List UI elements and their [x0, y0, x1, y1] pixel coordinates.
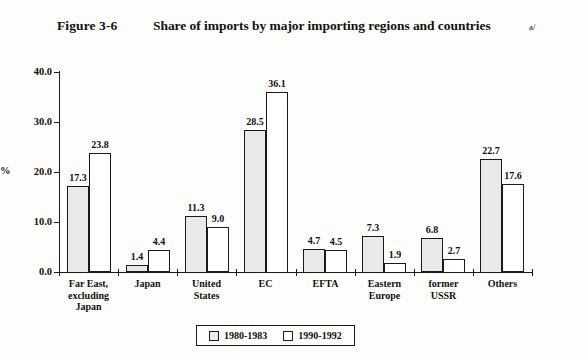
y-axis-tick-label: 40.0	[10, 67, 52, 78]
x-axis-tick	[118, 269, 119, 276]
bar	[325, 250, 347, 273]
bar	[207, 227, 229, 272]
figure-container: Figure 3-6 Share of imports by major imp…	[0, 0, 588, 360]
y-axis-unit-label: %	[0, 166, 11, 177]
bar-value-label: 2.7	[437, 246, 471, 256]
y-axis-tick-label: 30.0	[10, 117, 52, 128]
bar-value-label: 4.4	[142, 237, 176, 247]
y-axis-tick-label: 10.0	[10, 217, 52, 228]
bar	[502, 184, 524, 272]
x-axis-tick	[355, 269, 356, 276]
bar	[148, 250, 170, 272]
bar	[185, 216, 207, 273]
x-axis-tick	[236, 269, 237, 276]
bar	[89, 153, 111, 272]
bar-value-label: 17.6	[496, 171, 530, 181]
bar-value-label: 11.3	[179, 203, 213, 213]
bar	[244, 130, 266, 273]
bar-value-label: 1.9	[378, 250, 412, 260]
bar-value-label: 4.5	[319, 237, 353, 247]
x-axis-tick	[296, 269, 297, 276]
y-axis-tick	[54, 222, 60, 223]
legend-label: 1980-1983	[224, 331, 267, 341]
y-axis-tick	[54, 72, 60, 73]
x-axis-tick	[473, 269, 474, 276]
bar-value-label: 7.3	[356, 223, 390, 233]
legend-item[interactable]: 1980-1983	[209, 331, 267, 341]
y-axis-tick	[54, 172, 60, 173]
legend-label: 1990-1992	[298, 331, 341, 341]
bar-value-label: 6.8	[415, 225, 449, 235]
y-axis-tick-label: 20.0	[10, 167, 52, 178]
legend-item[interactable]: 1990-1992	[283, 331, 341, 341]
y-axis-tick	[54, 122, 60, 123]
bar	[443, 259, 465, 273]
bar-value-label: 36.1	[260, 79, 294, 89]
x-axis-tick	[414, 269, 415, 276]
bar	[303, 249, 325, 273]
plot-area: % 0.010.020.030.040.0 17.323.81.44.411.3…	[0, 0, 588, 300]
bar	[67, 186, 89, 273]
chart-legend: 1980-19831990-1992	[196, 325, 355, 346]
x-axis-tick	[532, 269, 533, 276]
legend-swatch-icon	[209, 331, 219, 341]
bar-value-label: 22.7	[474, 146, 508, 156]
bar	[384, 263, 406, 273]
bar	[126, 265, 148, 272]
x-axis-category-label: Others	[467, 278, 538, 290]
bar-value-label: 9.0	[201, 214, 235, 224]
x-axis-tick	[177, 269, 178, 276]
x-axis-tick	[59, 269, 60, 276]
bar-value-label: 23.8	[83, 140, 117, 150]
y-axis-tick-label: 0.0	[10, 267, 52, 278]
bar	[266, 92, 288, 273]
legend-swatch-icon	[283, 331, 293, 341]
